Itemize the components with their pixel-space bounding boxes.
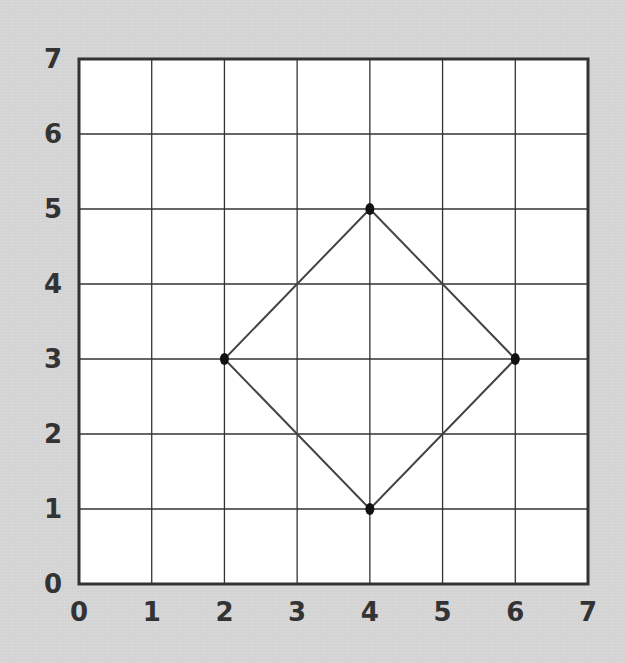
x-tick-label: 0 [70,597,88,627]
vertex-point [511,353,520,365]
y-tick-label: 0 [44,569,62,599]
x-tick-label: 3 [288,597,306,627]
coordinate-grid-chart: 01234567 01234567 [0,0,626,663]
x-tick-label: 4 [361,597,379,627]
vertex-point [365,203,374,215]
x-tick-label: 1 [143,597,161,627]
y-tick-label: 7 [44,44,62,74]
x-tick-label: 5 [434,597,452,627]
y-axis-ticks: 01234567 [44,44,62,599]
plot-area [79,59,588,584]
vertex-point [365,503,374,515]
y-tick-label: 1 [44,494,62,524]
y-tick-label: 5 [44,194,62,224]
x-axis-ticks: 01234567 [70,597,597,627]
vertex-point [220,353,229,365]
x-tick-label: 2 [215,597,233,627]
y-tick-label: 2 [44,419,62,449]
y-tick-label: 6 [44,119,62,149]
x-tick-label: 7 [579,597,597,627]
y-tick-label: 3 [44,344,62,374]
y-tick-label: 4 [44,269,62,299]
x-tick-label: 6 [506,597,524,627]
